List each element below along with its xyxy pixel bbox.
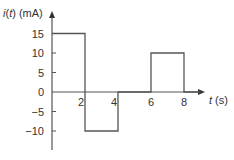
x-tick-label: 8 [181,96,187,108]
y-axis-title: i(t) (mA) [3,7,43,19]
y-tick-label: 15 [32,28,44,40]
y-tick-label: 5 [38,67,44,79]
axes [49,11,205,150]
waveform-line [52,34,201,132]
x-axis-title: t (s) [209,94,228,106]
x-tick-label: 2 [78,96,84,108]
y-tick-label: −10 [25,125,44,137]
y-axis-arrow-icon [49,11,55,18]
y-tick-label: 10 [32,47,44,59]
x-ticks: 2468 [78,96,187,108]
y-ticks: 151050−5−10 [25,28,56,138]
x-tick-label: 4 [111,96,117,108]
y-tick-label: −5 [31,106,44,118]
y-tick-label: 0 [38,86,44,98]
current-waveform-chart: 151050−5−10 2468 i(t) (mA) t (s) [0,0,234,160]
x-tick-label: 6 [148,96,154,108]
